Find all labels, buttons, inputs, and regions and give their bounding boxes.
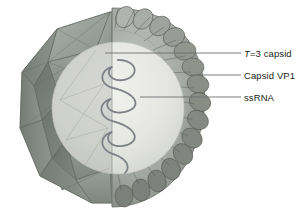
callout-label-ssrna: ssRNA [244,92,274,103]
callout-label-t3-capsid: T=3 capsid [244,48,292,59]
callout-label-capsid-vp1: Capsid VP1 [244,70,295,81]
virus-diagram-figure: T=3 capsid Capsid VP1 ssRNA [0,0,305,215]
callout-label-text: ssRNA [244,92,274,103]
virus-illustration [0,0,305,215]
callout-label-text: =3 capsid [250,48,292,59]
callout-label-text: Capsid VP1 [244,70,295,81]
